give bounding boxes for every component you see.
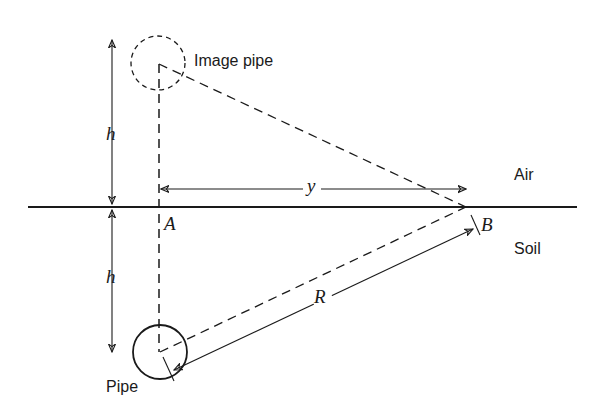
pipe-to-b-dashed-line [160,207,466,352]
point-b-label: B [481,214,493,235]
h-upper-label: h [106,123,116,144]
r-tick-at-b [471,215,480,235]
pipe-image-diagram: Image pipe Pipe Air Soil A B h h y R [0,0,601,412]
pipe-label: Pipe [106,378,138,395]
h-lower-label: h [106,266,116,287]
y-label: y [305,175,316,196]
image-pipe-circle [131,36,185,90]
air-label: Air [514,166,534,183]
soil-label: Soil [514,240,541,257]
r-label: R [313,286,326,307]
image-pipe-label: Image pipe [194,52,273,69]
point-a-label: A [162,213,176,234]
